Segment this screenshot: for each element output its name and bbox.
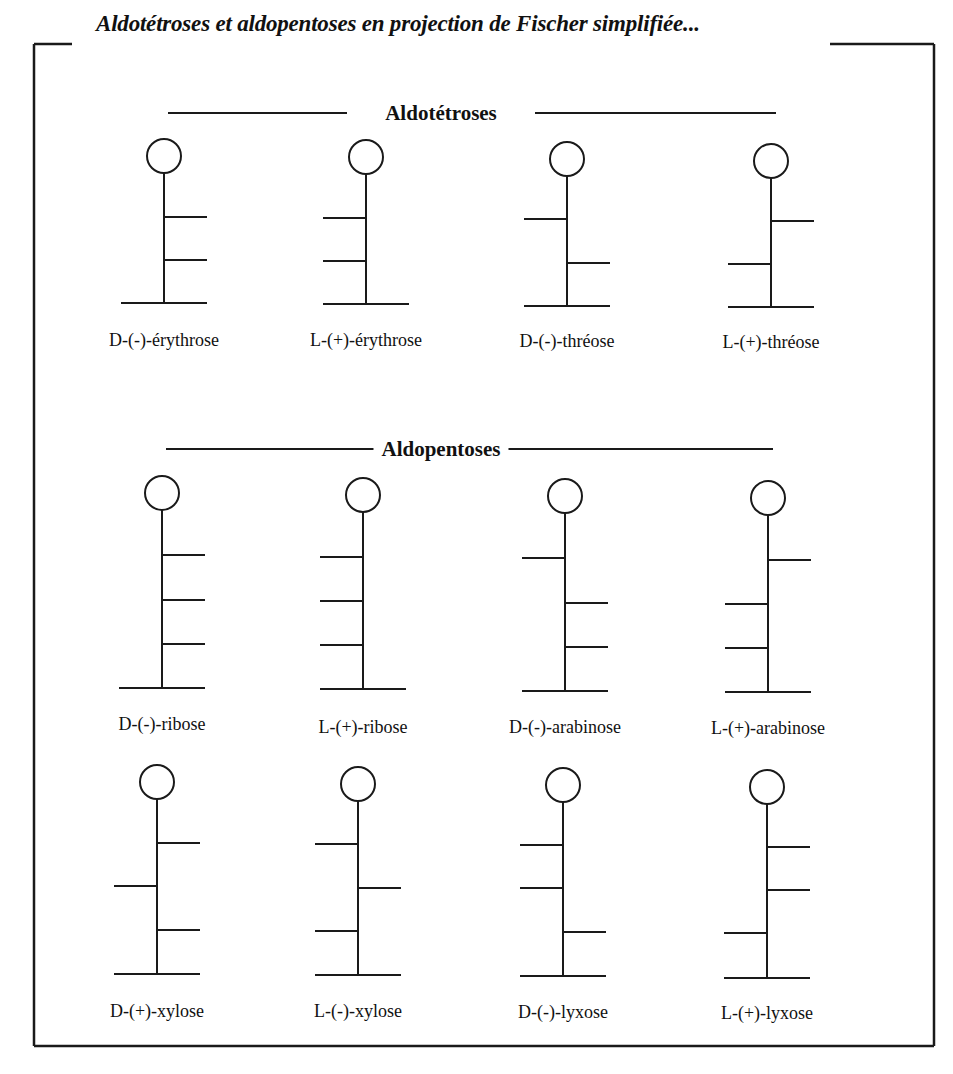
fischer-molecule [724, 770, 810, 978]
aldehyde-circle-icon [341, 767, 375, 801]
aldehyde-circle-icon [546, 768, 580, 802]
aldehyde-circle-icon [550, 142, 584, 176]
fischer-molecule [524, 142, 610, 306]
aldehyde-circle-icon [750, 770, 784, 804]
fischer-molecule [114, 765, 200, 974]
fischer-molecule [728, 144, 814, 307]
molecule-label: L-(+)-lyxose [721, 1003, 813, 1024]
molecule-label: D-(-)-lyxose [518, 1002, 608, 1023]
aldehyde-circle-icon [140, 765, 174, 799]
fischer-molecule [119, 476, 205, 688]
section-heading-aldopentoses: Aldopentoses [373, 437, 508, 462]
molecule-label: D-(+)-xylose [110, 1001, 204, 1022]
fischer-molecule [522, 479, 608, 691]
fischer-molecule [320, 478, 406, 689]
fischer-molecule [315, 767, 401, 975]
figure-title: Aldotétroses et aldopentoses en projecti… [90, 4, 706, 44]
molecule-label: L-(+)-ribose [318, 717, 407, 738]
figure-frame [34, 44, 934, 1046]
aldehyde-circle-icon [346, 478, 380, 512]
diagram-stage: Aldotétroses et aldopentoses en projecti… [0, 0, 953, 1074]
molecule-label: L-(+)-érythrose [310, 330, 422, 351]
aldehyde-circle-icon [349, 140, 383, 174]
molecule-label: D-(-)-arabinose [509, 717, 621, 738]
aldehyde-circle-icon [145, 476, 179, 510]
fischer-drawing [0, 0, 953, 1074]
molecule-label: D-(-)-ribose [119, 714, 206, 735]
fischer-molecule [520, 768, 606, 976]
aldehyde-circle-icon [754, 144, 788, 178]
molecule-label: D-(-)-érythrose [109, 330, 219, 351]
section-heading-aldotetroses: Aldotétroses [377, 101, 505, 126]
aldehyde-circle-icon [751, 481, 785, 515]
fischer-molecule [121, 139, 207, 303]
molecule-label: L-(+)-thréose [722, 332, 819, 353]
fischer-molecule [725, 481, 811, 692]
molecule-label: D-(-)-thréose [520, 331, 615, 352]
fischer-molecule [323, 140, 409, 304]
aldehyde-circle-icon [147, 139, 181, 173]
aldehyde-circle-icon [548, 479, 582, 513]
molecule-label: L-(-)-xylose [314, 1001, 402, 1022]
molecule-label: L-(+)-arabinose [711, 718, 825, 739]
